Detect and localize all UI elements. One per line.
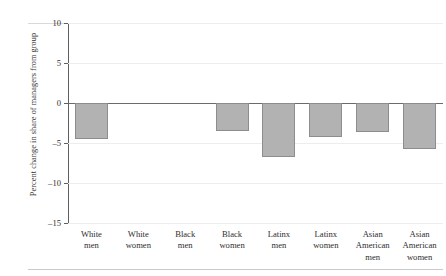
x-axis-tick-label: Blackmen (162, 229, 209, 252)
x-axis-tick-label-line: American (396, 240, 443, 251)
x-axis-tick-label: AsianAmericanwomen (396, 229, 443, 263)
bar (356, 103, 389, 132)
bar (262, 103, 295, 157)
x-axis-tick-label-line: men (349, 252, 396, 263)
x-axis-tick-label-line: Black (209, 229, 256, 240)
x-axis-tick-label-line: Latinx (256, 229, 303, 240)
y-axis-tick (64, 103, 68, 104)
plot-area: 1050–5–10–15WhitemenWhitewomenBlackmenBl… (68, 23, 443, 223)
y-gridline (68, 63, 443, 64)
bar (403, 103, 436, 149)
y-axis-tick-label: –10 (48, 178, 61, 188)
x-axis-tick-label-line: women (115, 240, 162, 251)
y-axis-tick-label: 0 (57, 98, 61, 108)
x-axis-tick-label: Whitewomen (115, 229, 162, 252)
x-axis-tick-label-line: Latinx (302, 229, 349, 240)
y-gridline (68, 23, 443, 24)
y-gridline (68, 183, 443, 184)
y-axis-tick-label: 10 (52, 18, 61, 28)
x-axis-tick-label-line: women (396, 252, 443, 263)
bar (309, 103, 342, 137)
x-axis-tick-label: AsianAmericanmen (349, 229, 396, 263)
x-axis-tick-label-line: men (256, 240, 303, 251)
y-axis-tick (64, 183, 68, 184)
x-axis-tick-label: Latinxmen (256, 229, 303, 252)
x-axis-tick-label-line: men (68, 240, 115, 251)
x-axis-tick-label: Blackwomen (209, 229, 256, 252)
x-axis-tick-label: Whitemen (68, 229, 115, 252)
bar-chart-figure: Percent change in share of managers from… (0, 0, 446, 276)
y-gridline (68, 223, 443, 224)
y-axis-title: Percent change in share of managers from… (29, 7, 38, 222)
y-axis-tick-label: –15 (48, 218, 61, 228)
x-axis-tick-label-line: men (162, 240, 209, 251)
x-axis-tick-label-line: women (209, 240, 256, 251)
x-axis-tick-label-line: American (349, 240, 396, 251)
bar (75, 103, 108, 139)
x-axis-tick-label: Latinxwomen (302, 229, 349, 252)
y-axis-tick (64, 143, 68, 144)
figure-bottom-rule (28, 269, 443, 270)
x-axis-tick-label-line: Asian (396, 229, 443, 240)
x-axis-tick-label-line: White (115, 229, 162, 240)
y-gridline (68, 143, 443, 144)
y-axis-tick (64, 223, 68, 224)
x-axis-tick-label-line: Asian (349, 229, 396, 240)
bar (216, 103, 249, 131)
x-axis-tick-label-line: White (68, 229, 115, 240)
y-axis-tick-label: 5 (57, 58, 61, 68)
x-axis-tick-label-line: Black (162, 229, 209, 240)
y-axis-tick-label: –5 (52, 138, 61, 148)
x-axis-tick-label-line: women (302, 240, 349, 251)
y-axis-tick (64, 63, 68, 64)
y-axis-tick (64, 23, 68, 24)
